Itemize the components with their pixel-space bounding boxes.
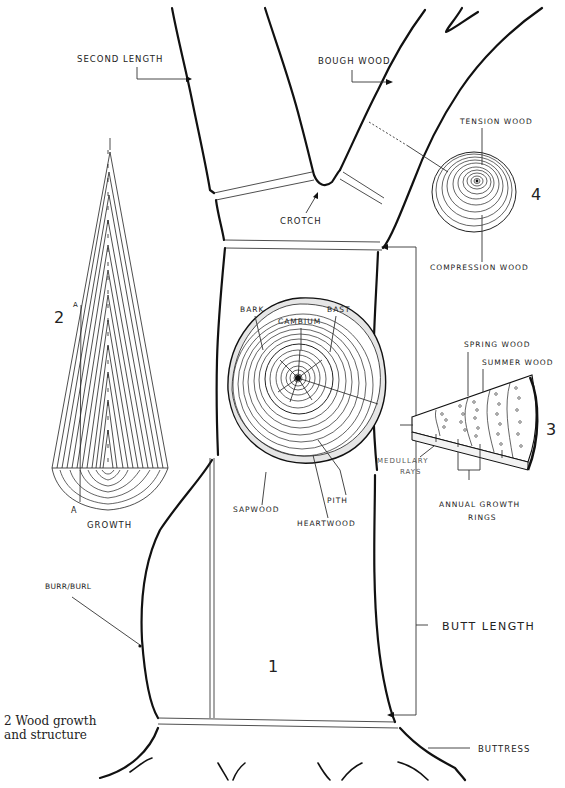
tension-wood-label: TENSION WOOD: [459, 117, 533, 126]
figure-caption: 2 Wood growth and structure: [4, 714, 97, 742]
bast-label: BAST: [327, 305, 351, 314]
caption-line-1: 2 Wood growth: [4, 714, 97, 728]
bark-label: BARK: [240, 305, 264, 314]
growth-cone-marker-top: A: [73, 301, 79, 309]
growth-label: GROWTH: [87, 520, 132, 530]
heartwood-label: HEARTWOOD: [297, 519, 356, 528]
medullary-rays-label-2: RAYS: [400, 468, 422, 476]
spring-wood-label: SPRING WOOD: [464, 340, 531, 349]
buttress-label: BUTTRESS: [478, 744, 530, 754]
crotch-label: CROTCH: [280, 216, 322, 226]
compression-wood-label: COMPRESSION WOOD: [430, 263, 529, 272]
butt-length-callout: BUTT LENGTH: [381, 244, 535, 718]
wood-wedge: [412, 375, 537, 470]
burr-burl-label: BURR/BURL: [45, 582, 92, 591]
sapwood-label: SAPWOOD: [233, 505, 280, 514]
annual-rings-label-1: ANNUAL GROWTH: [439, 500, 520, 509]
wood-growth-diagram: SECOND LENGTH BOUGH WOOD CROTCH BUTT LEN…: [0, 0, 565, 788]
second-length-label: SECOND LENGTH: [77, 54, 163, 64]
bough-wood-label: BOUGH WOOD: [318, 56, 391, 66]
burr-burl-callout: BURR/BURL: [45, 582, 142, 648]
butt-length-label: BUTT LENGTH: [442, 620, 535, 633]
reaction-wood-labels: TENSION WOOD COMPRESSION WOOD: [430, 117, 533, 272]
crotch-callout: CROTCH: [280, 192, 322, 226]
pith-dot: [295, 375, 301, 381]
wedge-number: 3: [546, 420, 556, 439]
summer-wood-label: SUMMER WOOD: [482, 358, 554, 367]
growth-cone-number: 2: [54, 308, 64, 327]
medullary-rays-label-1: MEDULLARY: [377, 457, 428, 465]
second-length-callout: SECOND LENGTH: [77, 54, 192, 82]
reaction-wood-number: 4: [531, 185, 541, 204]
growth-cone-marker-bottom: A: [71, 506, 77, 515]
buttress-callout: BUTTRESS: [428, 744, 530, 754]
cambium-label: CAMBIUM: [278, 317, 321, 326]
section-number-1: 1: [268, 657, 278, 676]
caption-line-2: and structure: [4, 728, 87, 742]
growth-cone: [52, 138, 168, 510]
reaction-wood-section: [432, 152, 516, 232]
annual-rings-label-2: RINGS: [468, 513, 497, 522]
pith-label: PITH: [327, 496, 348, 505]
